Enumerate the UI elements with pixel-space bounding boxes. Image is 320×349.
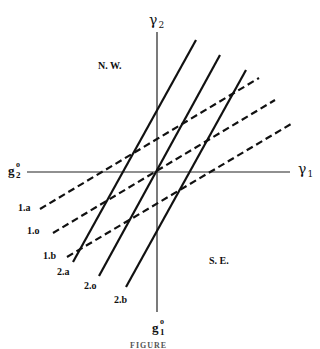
line-label-1a: 1.a [18,202,31,213]
x-intercept-label: go1 [152,321,159,334]
diagram-canvas [0,0,320,349]
line-label-2a: 2.a [57,266,70,277]
line-label-1o: 1.o [27,225,40,236]
x-intercept-subscript: 1 [160,328,165,337]
dashed-line-1a [40,78,259,209]
x-intercept-superscript: o [160,318,164,326]
solid-line-2o [99,55,220,276]
y-intercept-label: go2 [8,164,15,177]
y-axis-label: γ2 [149,12,164,30]
y-axis-symbol: γ [149,12,157,28]
x-axis-label: γ1 [298,161,313,179]
solid-line-2a [73,40,196,262]
y-intercept-subscript: 2 [16,171,21,180]
region-nw-label: N. W. [98,60,122,71]
line-label-1b: 1.b [43,250,56,261]
y-intercept-superscript: o [16,161,20,169]
line-label-2o: 2.o [84,280,97,291]
region-se-label: S. E. [209,255,229,266]
line-label-2b: 2.b [114,294,127,305]
dashed-line-1o [53,100,275,233]
y-intercept-base: g [8,163,15,178]
x-axis-subscript: 1 [307,169,313,179]
x-axis-symbol: γ [298,161,306,177]
y-axis-subscript: 2 [158,20,164,30]
x-intercept-base: g [152,320,159,335]
figure-caption: FIGURE [130,341,167,349]
